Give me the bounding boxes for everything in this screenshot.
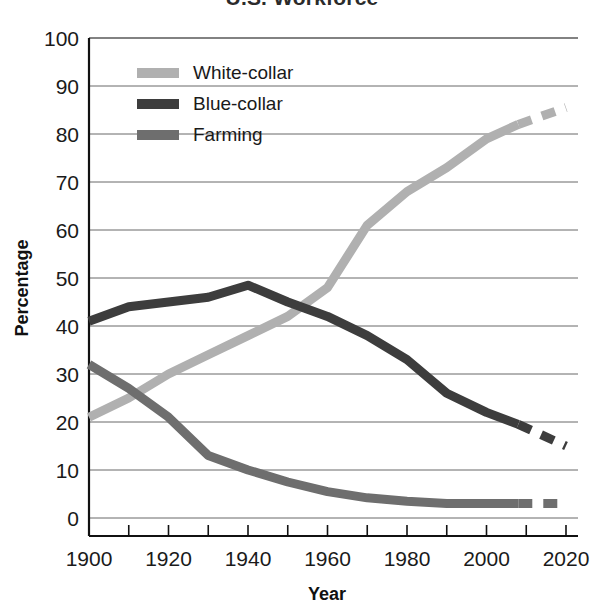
x-tick-label: 1920 (145, 547, 192, 570)
axis-lines (89, 38, 578, 536)
x-axis-ticks (89, 525, 566, 536)
legend-label: Blue-collar (193, 93, 283, 114)
x-axis-title: Year (308, 584, 346, 604)
y-tick-label: 40 (56, 315, 79, 338)
line-chart-plot: 0102030405060708090100 19001920194019601… (0, 0, 604, 609)
x-tick-label: 1960 (304, 547, 351, 570)
y-tick-label: 20 (56, 411, 79, 434)
legend-label: Farming (193, 124, 263, 145)
y-tick-label: 90 (56, 75, 79, 98)
chart-container: U.S. Workforce 0102030405060708090100 19… (0, 0, 604, 609)
legend-swatch (137, 99, 179, 109)
x-tick-label: 1940 (225, 547, 272, 570)
y-axis-tick-labels: 0102030405060708090100 (44, 27, 79, 530)
y-tick-label: 100 (44, 27, 79, 50)
y-tick-label: 80 (56, 123, 79, 146)
y-tick-label: 50 (56, 267, 79, 290)
y-tick-label: 60 (56, 219, 79, 242)
y-axis-title: Percentage (12, 239, 32, 336)
y-tick-label: 0 (67, 507, 79, 530)
x-tick-label: 2020 (543, 547, 590, 570)
y-tick-label: 30 (56, 363, 79, 386)
y-tick-label: 70 (56, 171, 79, 194)
legend-swatch (137, 130, 179, 140)
legend-label: White-collar (193, 62, 294, 83)
x-tick-label: 1980 (384, 547, 431, 570)
x-axis-tick-labels: 1900192019401960198020002020 (66, 547, 590, 570)
series-line (89, 124, 518, 417)
data-series (89, 108, 566, 504)
x-tick-label: 2000 (463, 547, 510, 570)
series-projection-line (518, 424, 566, 446)
x-tick-label: 1900 (66, 547, 113, 570)
series-projection-line (518, 108, 566, 125)
y-tick-label: 10 (56, 459, 79, 482)
chart-legend: White-collarBlue-collarFarming (137, 62, 294, 145)
legend-swatch (137, 68, 179, 78)
